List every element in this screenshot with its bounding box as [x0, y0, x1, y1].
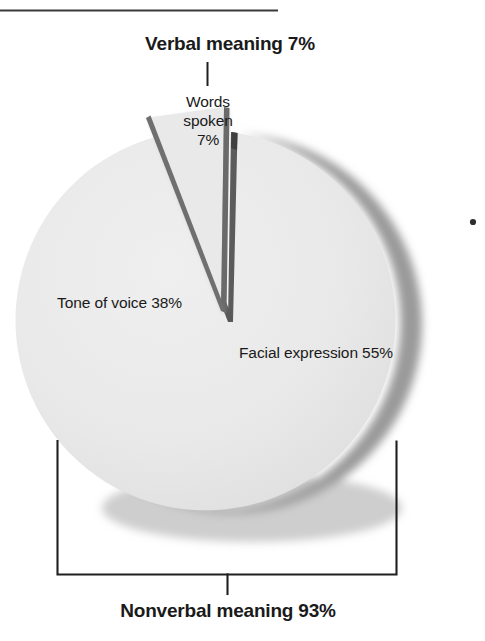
- wedge-label-line-1: Words: [163, 92, 253, 111]
- wedge-label-line-3: 7%: [163, 130, 253, 149]
- chart-caption-nonverbal-meaning: Nonverbal meaning 93%: [120, 600, 335, 622]
- chart-title-verbal-meaning: Verbal meaning 7%: [145, 33, 315, 55]
- slice-label-facial-expression: Facial expression 55%: [239, 344, 393, 362]
- wedge-label-words-spoken: Words spoken 7%: [163, 92, 253, 149]
- dot-artifact: [470, 219, 476, 225]
- wedge-label-line-2: spoken: [163, 111, 253, 130]
- slice-label-tone-of-voice: Tone of voice 38%: [57, 294, 182, 312]
- pie-chart-figure: Verbal meaning 7% Words spoken 7% Tone o…: [0, 0, 485, 641]
